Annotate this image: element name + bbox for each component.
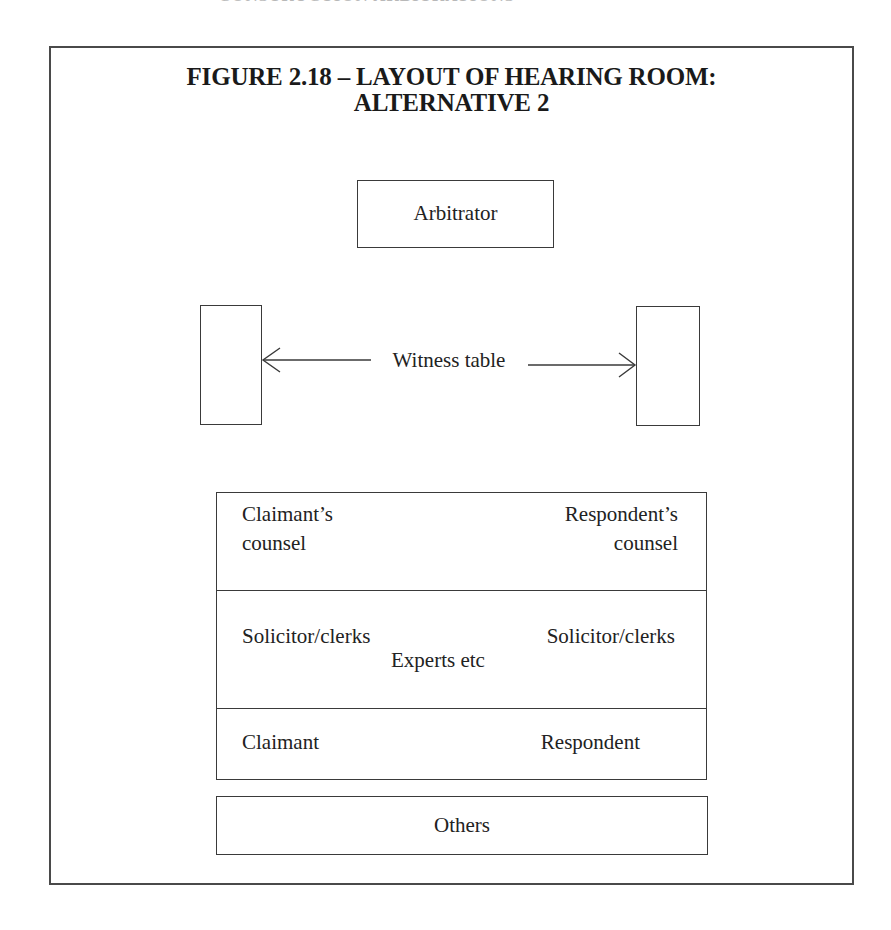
respondents-counsel-label: Respondent’s counsel bbox=[565, 500, 678, 558]
claimants-counsel-line-1: Claimant’s bbox=[242, 500, 333, 529]
witness-table-label: Witness table bbox=[370, 348, 528, 373]
claimant-label: Claimant bbox=[242, 728, 319, 757]
parties-row: Claimant Respondent bbox=[217, 708, 706, 779]
others-box: Others bbox=[216, 796, 708, 855]
figure-title: FIGURE 2.18 – LAYOUT OF HEARING ROOM: AL… bbox=[49, 64, 854, 116]
respondent-solicitors-label: Solicitor/clerks bbox=[547, 622, 675, 651]
witness-table-left bbox=[200, 305, 262, 425]
respondents-counsel-line-1: Respondent’s bbox=[565, 500, 678, 529]
respondent-label: Respondent bbox=[541, 728, 640, 757]
counsel-row: Claimant’s counsel Respondent’s counsel bbox=[217, 493, 706, 591]
respondents-counsel-line-2: counsel bbox=[565, 529, 678, 558]
others-label: Others bbox=[217, 811, 707, 840]
arbitrator-label: Arbitrator bbox=[358, 199, 553, 228]
claimants-counsel-line-2: counsel bbox=[242, 529, 333, 558]
claimant-solicitors-label: Solicitor/clerks bbox=[242, 622, 370, 651]
figure-title-line-2: ALTERNATIVE 2 bbox=[49, 90, 854, 116]
solicitors-row: Solicitor/clerks Solicitor/clerks Expert… bbox=[217, 590, 706, 709]
arbitrator-box: Arbitrator bbox=[357, 180, 554, 248]
running-header-cutoff: CONSTRUCTION ARBITRATIONS bbox=[218, 0, 518, 6]
claimants-counsel-label: Claimant’s counsel bbox=[242, 500, 333, 558]
figure-title-line-1: FIGURE 2.18 – LAYOUT OF HEARING ROOM: bbox=[49, 64, 854, 90]
experts-label: Experts etc bbox=[391, 646, 485, 675]
witness-table-right bbox=[636, 306, 700, 426]
counsel-table: Claimant’s counsel Respondent’s counsel … bbox=[216, 492, 707, 780]
